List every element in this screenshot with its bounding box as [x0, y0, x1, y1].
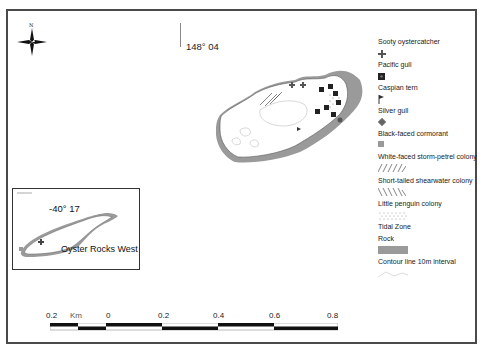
scale-unit-label: Km — [70, 311, 82, 320]
scale-tick-label: 0.2 — [158, 311, 169, 320]
main-island-map — [200, 60, 370, 170]
legend-label: Pacific gull — [378, 61, 411, 68]
scale-bar — [50, 323, 338, 331]
legend-label: White-faced storm-petrel colony — [378, 153, 477, 160]
flag-icon — [378, 95, 386, 104]
back-hatch-icon — [378, 188, 406, 196]
legend-label: Caspian tern — [378, 84, 418, 91]
inset-island-name: Oyster Rocks West — [61, 244, 138, 254]
scale-tick-label: 0 — [106, 311, 110, 320]
grey-square-icon — [378, 141, 384, 147]
dotted-pattern-icon — [378, 211, 408, 220]
scale-tick-label: 0.4 — [213, 311, 224, 320]
dark-square-dot-icon — [378, 73, 385, 80]
inset-map: -40° 17 Oyster Rocks West — [12, 188, 140, 270]
forward-hatch-icon — [378, 164, 406, 172]
legend-label: Short-tailed shearwater colony — [378, 177, 473, 184]
contour-line-icon — [378, 270, 408, 278]
legend-label: Sooty oystercatcher — [378, 38, 440, 45]
legend-label: Tidal Zone — [378, 223, 411, 230]
longitude-label: 148° 04 — [186, 41, 219, 52]
scale-tick-label: 0.2 — [46, 311, 57, 320]
legend-label: Rock — [378, 235, 394, 242]
legend-label: Black-faced cormorant — [378, 130, 448, 137]
legend-label: Silver gull — [378, 107, 408, 114]
diamond-cross-icon — [378, 118, 386, 126]
cross-icon — [378, 50, 386, 58]
latitude-tick — [17, 191, 37, 195]
longitude-tick — [180, 23, 181, 47]
legend-label: Little penguin colony — [378, 200, 442, 207]
north-arrow-icon — [17, 28, 47, 56]
grey-fill-icon — [378, 246, 408, 254]
legend-label: Contour line 10m interval — [378, 258, 456, 265]
scale-tick-label: 0.6 — [269, 311, 280, 320]
scale-tick-label: 0.8 — [327, 311, 338, 320]
